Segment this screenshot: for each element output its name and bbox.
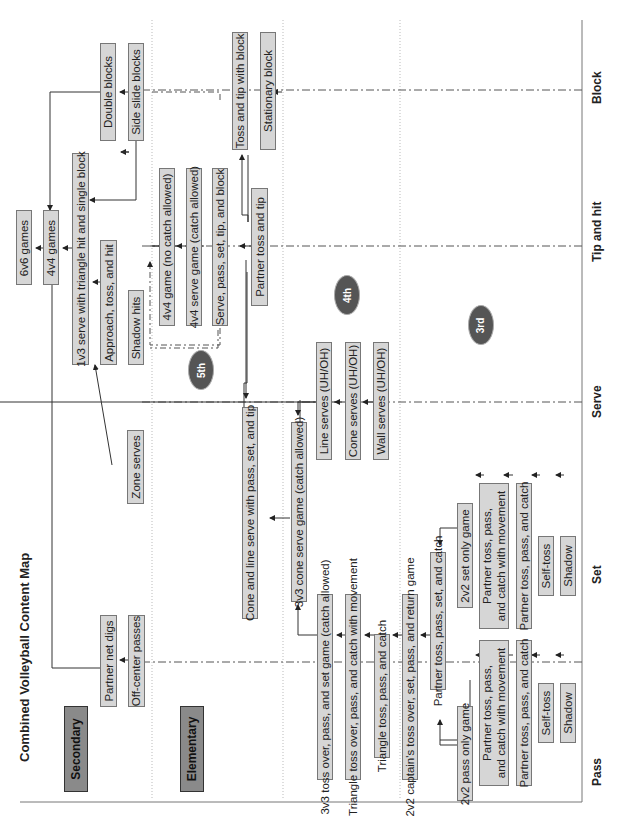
node-label: Triangle toss over, pass, and catch with… (346, 558, 360, 816)
node-double-blocks: Double blocks (100, 43, 116, 141)
node-label: Line serves (UH/OH) (317, 348, 331, 455)
node-label: Wall serves (UH/OH) (374, 348, 388, 455)
node-serve-pass-set-tip-block: Serve, pass, set, tip, and block (212, 168, 228, 326)
node-label: Partner toss, pass, set, and catch (431, 536, 445, 707)
grade-3rd-label: 3rd (476, 317, 487, 333)
node-triangle-toss-movement: Triangle toss over, pass, and catch with… (345, 594, 361, 780)
node-label: 3v3 cone serve game (catch allowed) (292, 417, 306, 608)
node-label: Zone serves (129, 435, 143, 498)
node-label: 3v3 toss over, pass, and set game (catch… (318, 559, 332, 814)
node-label: Partner toss, pass, and catch (517, 639, 531, 788)
axis-tip-and-hit: Tip and hit (590, 202, 604, 262)
node-label: 2v2 pass only game (458, 702, 472, 804)
grade-4th-badge: 4th (334, 275, 360, 315)
node-4v4-games: 4v4 games (43, 210, 59, 285)
node-pass-partner-toss-pass-catch: Partner toss, pass, and catch (516, 640, 532, 786)
level-secondary-label: Secondary (69, 718, 83, 779)
node-1v3-serve: 1v3 serve with triangle hit and single b… (72, 153, 89, 365)
grade-4th-label: 4th (342, 288, 353, 303)
node-2v2-captains: 2v2 captain's toss over, set, pass, and … (402, 594, 418, 780)
axis-serve: Serve (590, 385, 604, 418)
node-approach-toss-hit: Approach, toss, and hit (100, 240, 117, 365)
axis-set: Set (590, 565, 604, 584)
node-partner-toss-pass-set-catch: Partner toss, pass, set, and catch (430, 552, 446, 690)
node-label: Shadow (561, 545, 575, 587)
node-pass-partner-movement: Partner toss, pass, and catch with movem… (479, 640, 509, 786)
node-label: Self-toss (539, 544, 553, 589)
level-elementary-label: Elementary (185, 717, 199, 782)
node-set-self-toss: Self-toss (538, 536, 554, 596)
node-label: 6v6 games (17, 219, 31, 275)
node-label: Cone serves (UH/OH) (346, 345, 360, 457)
level-secondary: Secondary (64, 706, 88, 792)
node-label: Side slide blocks (129, 49, 143, 135)
node-4v4-no-catch: 4v4 game (no catch allowed) (159, 168, 175, 326)
node-label: Cone and line serve with pass, set, and … (243, 405, 257, 621)
content-map-diagram: Combined Volleyball Content Map Secondar… (0, 0, 619, 817)
node-pass-shadow: Shadow (560, 683, 576, 743)
node-label: Approach, toss, and hit (102, 244, 116, 362)
diagram-title: Combined Volleyball Content Map (17, 553, 32, 762)
node-label: 2v2 captain's toss over, set, pass, and … (403, 557, 417, 816)
node-label: 2v2 set only game (458, 509, 472, 602)
node-cone-line-serve: Cone and line serve with pass, set, and … (242, 407, 258, 619)
node-label: 4v4 games (44, 219, 58, 275)
node-set-shadow: Shadow (560, 536, 576, 596)
node-label: Toss and tip with block (233, 33, 247, 148)
node-4v4-serve-game: 4v4 serve game (catch allowed) (186, 168, 202, 326)
node-line-serves: Line serves (UH/OH) (316, 342, 332, 460)
node-side-slide-blocks: Side slide blocks (128, 43, 144, 141)
node-label: Shadow (561, 692, 575, 734)
node-pass-self-toss: Self-toss (538, 683, 554, 743)
node-label: Partner toss, pass, and catch (517, 482, 531, 631)
node-triangle-toss: Triangle toss, pass, and catch (374, 634, 390, 758)
node-label: Self-toss (539, 691, 553, 736)
node-set-partner-movement: Partner toss, pass, and catch with movem… (479, 483, 509, 629)
grade-3rd-badge: 3rd (468, 305, 494, 345)
node-zone-serves: Zone serves (127, 430, 144, 504)
node-3v3-cone-serve-game: 3v3 cone serve game (catch allowed) (291, 422, 307, 602)
node-label: 4v4 serve game (catch allowed) (187, 166, 201, 328)
node-label: Partner net digs (102, 620, 116, 701)
node-off-center-passes: Off-center passes (128, 615, 145, 707)
node-2v2-set-only: 2v2 set only game (457, 503, 473, 608)
axis-block: Block (590, 71, 604, 104)
node-label: Partner toss, pass, and catch with movem… (480, 491, 508, 621)
node-wall-serves: Wall serves (UH/OH) (373, 342, 389, 460)
node-label: Partner toss and tip (253, 197, 267, 297)
node-label: Double blocks (101, 56, 115, 128)
node-toss-tip-with-block: Toss and tip with block (232, 32, 248, 150)
node-label: Serve, pass, set, tip, and block (213, 169, 227, 326)
grade-5th-label: 5th (196, 363, 207, 378)
axis-pass: Pass (590, 758, 604, 786)
node-shadow-hits: Shadow hits (128, 290, 144, 365)
node-cone-serves: Cone serves (UH/OH) (345, 342, 361, 460)
grade-5th-badge: 5th (188, 350, 214, 390)
node-3v3-toss-over-game: 3v3 toss over, pass, and set game (catch… (317, 594, 333, 780)
node-partner-net-digs: Partner net digs (100, 615, 117, 707)
level-elementary: Elementary (180, 706, 204, 792)
node-6v6-games: 6v6 games (16, 210, 32, 285)
node-label: Stationary block (261, 50, 275, 132)
node-2v2-pass-only: 2v2 pass only game (457, 706, 473, 801)
node-set-partner-toss-pass-catch: Partner toss, pass, and catch (516, 483, 532, 629)
node-label: 4v4 game (no catch allowed) (160, 173, 174, 320)
node-label: Partner toss, pass, and catch with movem… (480, 648, 508, 778)
node-label: 1v3 serve with triangle hit and single b… (74, 151, 88, 366)
node-stationary-block: Stationary block (260, 32, 276, 150)
node-label: Triangle toss, pass, and catch (375, 620, 389, 772)
node-partner-toss-and-tip: Partner toss and tip (251, 188, 268, 306)
node-label: Off-center passes (130, 616, 144, 707)
node-label: Shadow hits (129, 296, 143, 359)
